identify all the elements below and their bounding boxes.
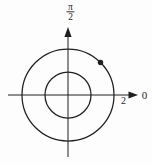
vertical-axis-label-numerator: π [68, 2, 73, 12]
data-point [98, 60, 103, 65]
polar-plot: π 2 0 2 [0, 0, 152, 163]
polar-axis-arrowhead-icon [129, 92, 139, 99]
polar-axis-label: 0 [142, 89, 148, 101]
vertical-axis-label-denominator: 2 [68, 12, 73, 22]
polar-plot-figure: π 2 0 2 [0, 0, 152, 163]
radius-tick-label: 2 [121, 95, 126, 106]
vertical-axis-arrowhead-icon [64, 27, 71, 37]
